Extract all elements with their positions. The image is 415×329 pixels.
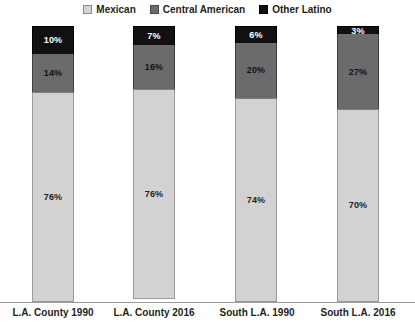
x-axis-line bbox=[0, 302, 415, 303]
segment-value-label: 27% bbox=[349, 67, 368, 77]
bar-segment-mexican: 76% bbox=[133, 89, 175, 299]
legend-label-other-latino: Other Latino bbox=[272, 4, 331, 15]
central-american-swatch-icon bbox=[150, 5, 159, 14]
bar-segment-central-american: 16% bbox=[133, 45, 175, 89]
segment-value-label: 7% bbox=[147, 31, 160, 41]
bar-segment-other-latino: 10% bbox=[32, 26, 74, 54]
segment-value-label: 3% bbox=[351, 26, 364, 34]
bar-segment-mexican: 70% bbox=[337, 109, 379, 302]
segment-value-label: 10% bbox=[44, 35, 63, 45]
segment-value-label: 70% bbox=[349, 200, 368, 210]
plot-area: 10% 14% 76% 7% 16% 76% 6% bbox=[0, 26, 415, 302]
segment-value-label: 6% bbox=[249, 30, 262, 40]
bar-group-la-county-2016: 7% 16% 76% bbox=[133, 26, 175, 302]
bar-segment-central-american: 14% bbox=[32, 54, 74, 93]
segment-value-label: 16% bbox=[145, 62, 164, 72]
bar-segment-mexican: 74% bbox=[235, 98, 277, 302]
x-axis-category-labels: L.A. County 1990 L.A. County 2016 South … bbox=[0, 306, 415, 322]
category-label-south-la-1990: South L.A. 1990 bbox=[205, 306, 309, 320]
legend-item-other-latino: Other Latino bbox=[259, 4, 331, 15]
bar-segment-central-american: 20% bbox=[235, 43, 277, 98]
stacked-bar-chart: Mexican Central American Other Latino 10… bbox=[0, 0, 415, 329]
bar-group-la-county-1990: 10% 14% 76% bbox=[32, 26, 74, 302]
bar-segment-other-latino: 7% bbox=[133, 26, 175, 45]
legend-label-central-american: Central American bbox=[163, 4, 245, 15]
segment-value-label: 76% bbox=[145, 189, 164, 199]
bar-group-south-la-1990: 6% 20% 74% bbox=[235, 26, 277, 302]
bar-segment-mexican: 76% bbox=[32, 92, 74, 302]
segment-value-label: 20% bbox=[247, 65, 266, 75]
legend-item-central-american: Central American bbox=[150, 4, 245, 15]
category-label-la-county-2016: L.A. County 2016 bbox=[102, 306, 206, 320]
segment-value-label: 76% bbox=[44, 192, 63, 202]
legend-item-mexican: Mexican bbox=[83, 4, 135, 15]
bar-group-south-la-2016: 3% 27% 70% bbox=[337, 26, 379, 302]
category-label-la-county-1990: L.A. County 1990 bbox=[1, 306, 105, 320]
segment-value-label: 14% bbox=[44, 68, 63, 78]
legend-label-mexican: Mexican bbox=[96, 4, 135, 15]
category-label-south-la-2016: South L.A. 2016 bbox=[306, 306, 410, 320]
chart-legend: Mexican Central American Other Latino bbox=[0, 2, 415, 17]
other-latino-swatch-icon bbox=[259, 5, 268, 14]
bar-segment-central-american: 27% bbox=[337, 34, 379, 109]
mexican-swatch-icon bbox=[83, 5, 92, 14]
segment-value-label: 74% bbox=[247, 195, 266, 205]
bar-segment-other-latino: 6% bbox=[235, 26, 277, 43]
bar-segment-other-latino: 3% bbox=[337, 26, 379, 34]
